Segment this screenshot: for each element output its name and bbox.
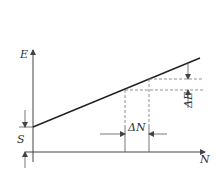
- y-axis-label: E: [19, 48, 28, 61]
- intercept-label: S: [17, 133, 25, 146]
- delta-e-label: ΔE: [182, 92, 195, 109]
- x-axis-label: N: [199, 153, 210, 166]
- diagram-canvas: E N S ΔN ΔE: [0, 0, 217, 177]
- delta-n-label: ΔN: [127, 121, 146, 134]
- trend-line: [33, 58, 200, 127]
